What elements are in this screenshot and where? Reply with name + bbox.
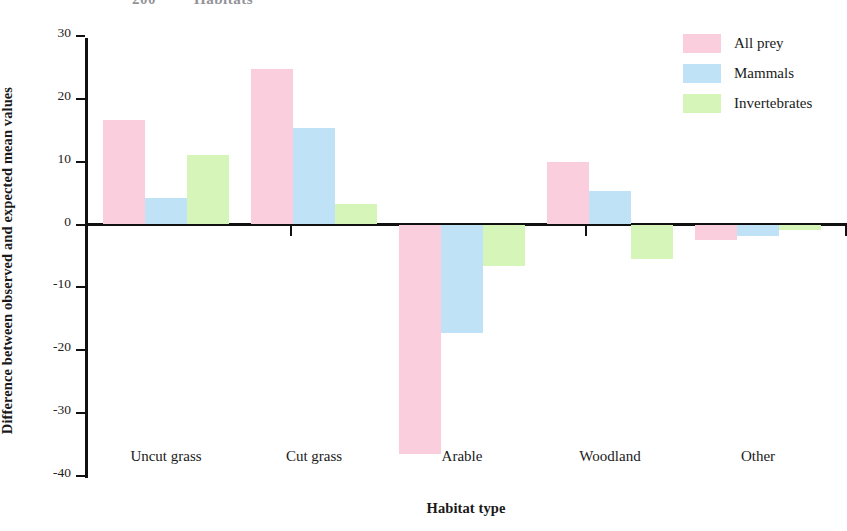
legend-color-swatch: [683, 94, 721, 113]
x-axis-title: Habitat type: [85, 500, 847, 517]
y-tick-label: 30: [58, 25, 72, 41]
clipped-header-text: 200Habitats: [132, 0, 552, 11]
y-tick: 0: [76, 224, 85, 226]
y-tick: 30: [76, 35, 85, 37]
y-tick: -30: [76, 412, 85, 414]
bar: [145, 198, 187, 224]
x-category-label: Woodland: [530, 448, 690, 465]
x-tick: [585, 226, 587, 236]
chart-page: 200Habitats Difference between observed …: [0, 0, 847, 531]
y-tick: 10: [76, 161, 85, 163]
y-tick-label: 0: [64, 214, 71, 230]
y-tick-label: -30: [53, 402, 71, 418]
x-category-label: Uncut grass: [86, 448, 246, 465]
bar: [441, 225, 483, 334]
y-tick: -40: [76, 475, 85, 477]
x-category-label: Arable: [382, 448, 542, 465]
y-tick-label: 10: [58, 151, 72, 167]
legend: All preyMammalsInvertebrates: [683, 28, 812, 118]
y-tick-label: -20: [53, 339, 71, 355]
legend-color-swatch: [683, 34, 721, 53]
y-tick: 20: [76, 98, 85, 100]
clipped-header-word: Habitats: [194, 0, 253, 7]
x-category-label: Cut grass: [234, 448, 394, 465]
legend-item[interactable]: All prey: [683, 28, 812, 58]
legend-item[interactable]: Mammals: [683, 58, 812, 88]
clipped-header-number: 200: [132, 0, 156, 7]
y-axis-title: Difference between observed and expected…: [0, 26, 16, 496]
y-tick: -10: [76, 286, 85, 288]
y-tick-label: -10: [53, 276, 71, 292]
bar: [695, 225, 737, 241]
legend-item[interactable]: Invertebrates: [683, 88, 812, 118]
legend-label: All prey: [734, 35, 784, 52]
legend-label: Mammals: [734, 65, 794, 82]
y-tick-label: 20: [58, 88, 72, 104]
y-tick: -20: [76, 349, 85, 351]
bar: [779, 225, 821, 230]
bar: [737, 225, 779, 236]
x-tick: [85, 226, 87, 236]
bar: [483, 225, 525, 266]
bar: [547, 162, 589, 225]
x-category-label: Other: [678, 448, 838, 465]
bar: [631, 225, 673, 260]
y-axis-line: [85, 38, 88, 478]
bar: [293, 128, 335, 224]
y-tick-label: -40: [53, 465, 71, 481]
bar: [335, 204, 377, 224]
bar: [399, 225, 441, 454]
x-tick: [290, 226, 292, 236]
bar: [589, 191, 631, 225]
legend-label: Invertebrates: [734, 95, 812, 112]
bar: [187, 155, 229, 224]
legend-color-swatch: [683, 64, 721, 83]
bar: [103, 120, 145, 225]
bar: [251, 69, 293, 224]
